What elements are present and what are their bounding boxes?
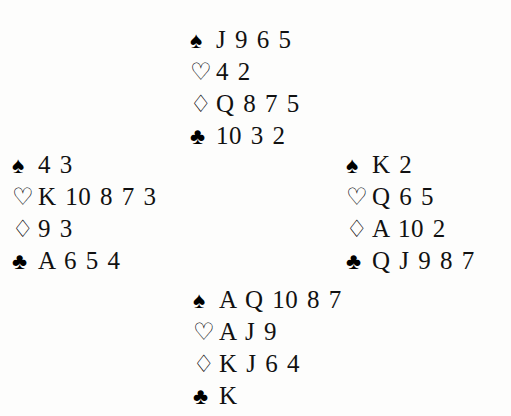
spade-suit-symbol: ♠ xyxy=(346,150,372,182)
hand-south-hearts-row: ♡ A J 9 xyxy=(193,316,342,348)
hand-east-hearts-cards: Q 6 5 xyxy=(372,181,434,213)
hand-north-hearts-cards: 4 2 xyxy=(216,56,251,88)
hand-south-diamonds-row: ♢ K J 6 4 xyxy=(193,348,342,380)
hand-east-hearts-row: ♡ Q 6 5 xyxy=(346,181,475,213)
club-suit-symbol: ♣ xyxy=(190,121,216,153)
hand-west-hearts-cards: K 10 8 7 3 xyxy=(38,181,157,213)
diamond-suit-symbol: ♢ xyxy=(190,88,216,120)
hand-west: ♠ 4 3 ♡ K 10 8 7 3 ♢ 9 3 ♣ A 6 5 4 xyxy=(12,149,157,277)
spade-suit-symbol: ♠ xyxy=(193,285,219,317)
hand-west-hearts-row: ♡ K 10 8 7 3 xyxy=(12,181,157,213)
hand-west-clubs-cards: A 6 5 4 xyxy=(38,245,120,277)
hand-south: ♠ A Q 10 8 7 ♡ A J 9 ♢ K J 6 4 ♣ K xyxy=(193,284,342,412)
hand-south-diamonds-cards: K J 6 4 xyxy=(219,348,300,380)
hand-south-clubs-cards: K xyxy=(219,380,238,412)
hand-south-spades-cards: A Q 10 8 7 xyxy=(219,284,342,316)
hand-north: ♠ J 9 6 5 ♡ 4 2 ♢ Q 8 7 5 ♣ 10 3 2 xyxy=(190,24,300,152)
hand-east-clubs-cards: Q J 9 8 7 xyxy=(372,245,475,277)
diamond-suit-symbol: ♢ xyxy=(12,213,38,245)
hand-west-diamonds-row: ♢ 9 3 xyxy=(12,213,157,245)
hand-north-clubs-row: ♣ 10 3 2 xyxy=(190,120,300,152)
hand-east: ♠ K 2 ♡ Q 6 5 ♢ A 10 2 ♣ Q J 9 8 7 xyxy=(346,149,475,277)
hand-east-diamonds-row: ♢ A 10 2 xyxy=(346,213,475,245)
hand-east-spades-row: ♠ K 2 xyxy=(346,149,475,181)
club-suit-symbol: ♣ xyxy=(346,246,372,278)
hand-north-diamonds-cards: Q 8 7 5 xyxy=(216,88,300,120)
hand-west-diamonds-cards: 9 3 xyxy=(38,213,73,245)
hand-south-hearts-cards: A J 9 xyxy=(219,316,277,348)
heart-suit-symbol: ♡ xyxy=(346,181,372,213)
hand-east-spades-cards: K 2 xyxy=(372,149,412,181)
hand-west-spades-cards: 4 3 xyxy=(38,149,73,181)
bridge-deal-diagram: ♠ J 9 6 5 ♡ 4 2 ♢ Q 8 7 5 ♣ 10 3 2 ♠ 4 3… xyxy=(0,0,511,416)
hand-north-diamonds-row: ♢ Q 8 7 5 xyxy=(190,88,300,120)
hand-north-spades-row: ♠ J 9 6 5 xyxy=(190,24,300,56)
hand-south-clubs-row: ♣ K xyxy=(193,380,342,412)
hand-north-spades-cards: J 9 6 5 xyxy=(216,24,291,56)
hand-east-diamonds-cards: A 10 2 xyxy=(372,213,446,245)
heart-suit-symbol: ♡ xyxy=(12,181,38,213)
hand-south-spades-row: ♠ A Q 10 8 7 xyxy=(193,284,342,316)
hand-west-clubs-row: ♣ A 6 5 4 xyxy=(12,245,157,277)
hand-west-spades-row: ♠ 4 3 xyxy=(12,149,157,181)
diamond-suit-symbol: ♢ xyxy=(193,348,219,380)
hand-north-clubs-cards: 10 3 2 xyxy=(216,120,286,152)
diamond-suit-symbol: ♢ xyxy=(346,213,372,245)
heart-suit-symbol: ♡ xyxy=(190,56,216,88)
club-suit-symbol: ♣ xyxy=(193,381,219,413)
club-suit-symbol: ♣ xyxy=(12,246,38,278)
heart-suit-symbol: ♡ xyxy=(193,316,219,348)
hand-north-hearts-row: ♡ 4 2 xyxy=(190,56,300,88)
hand-east-clubs-row: ♣ Q J 9 8 7 xyxy=(346,245,475,277)
spade-suit-symbol: ♠ xyxy=(190,25,216,57)
spade-suit-symbol: ♠ xyxy=(12,150,38,182)
